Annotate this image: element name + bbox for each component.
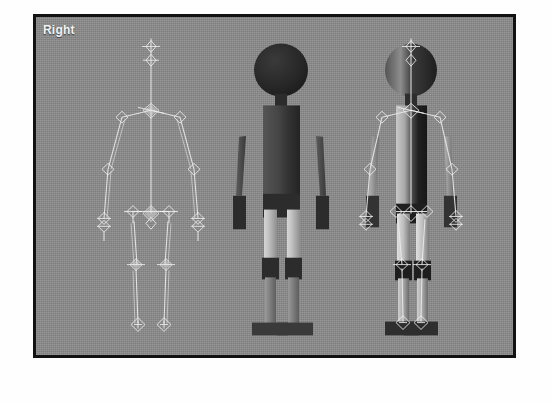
skeleton-left-leg [127,221,145,331]
mesh-right-leg [277,210,313,336]
mannequin-mesh-svg [211,17,351,355]
mesh-torso [263,105,300,208]
mesh-neck [275,94,287,108]
mesh-left-leg [252,210,288,336]
rig-and-mesh-figure[interactable] [336,17,486,355]
skeleton-rig-svg [76,17,226,355]
mesh-right-arm [316,136,329,229]
mesh-head [254,44,308,97]
skeleton-shoulders [122,103,180,118]
mesh-left-arm [233,136,246,229]
skeleton-pelvis [124,206,178,230]
skeleton-right-arm [174,111,205,241]
skeleton-left-arm [97,111,128,241]
viewport-frame[interactable]: Right [33,14,516,358]
skeleton-rig-figure[interactable] [76,17,226,355]
skeleton-right-leg [157,221,175,331]
mannequin-mesh-figure[interactable] [211,17,351,355]
rig-and-mesh-svg [336,17,486,355]
combined-left-thigh-mesh [397,214,410,263]
combined-left-hand-mesh [366,196,379,227]
skeleton-head-joint [142,39,160,67]
viewport-label: Right [43,23,75,37]
app-page: Right [0,0,553,403]
